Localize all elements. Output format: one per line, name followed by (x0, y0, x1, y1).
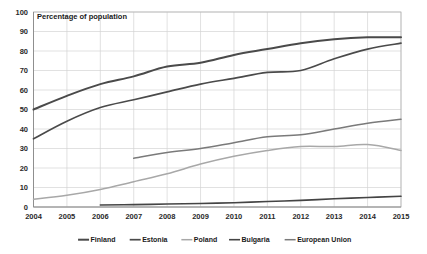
y-tick-label: 10 (20, 183, 28, 192)
chart-annotation: Percentage of population (37, 12, 127, 21)
chart-canvas: 0102030405060708090100 20042005200620072… (0, 0, 427, 254)
y-tick-label: 30 (20, 144, 28, 153)
legend-label: Bulgaria (242, 236, 270, 244)
y-tick-label: 50 (20, 105, 28, 114)
legend-label: European Union (297, 236, 351, 244)
y-tick-label: 90 (20, 27, 28, 36)
x-tick-label: 2007 (125, 212, 142, 221)
x-tick-label: 2015 (393, 212, 410, 221)
y-tick-label: 20 (20, 164, 28, 173)
legend-label: Estonia (142, 236, 167, 243)
x-tick-label: 2011 (259, 212, 275, 221)
y-tick-label: 70 (20, 66, 28, 75)
y-tick-label: 100 (15, 8, 28, 17)
x-tick-label: 2009 (192, 212, 209, 221)
legend-label: Finland (91, 236, 116, 243)
x-tick-label: 2014 (359, 212, 377, 221)
legend-label: Poland (194, 236, 217, 243)
y-tick-label: 0 (24, 203, 28, 212)
x-tick-label: 2012 (292, 212, 309, 221)
line-chart: 0102030405060708090100 20042005200620072… (0, 0, 427, 254)
y-tick-label: 80 (20, 47, 28, 56)
x-tick-label: 2005 (59, 212, 76, 221)
x-tick-label: 2010 (226, 212, 243, 221)
y-tick-label: 40 (20, 125, 28, 134)
y-tick-label: 60 (20, 86, 28, 95)
x-tick-label: 2013 (326, 212, 343, 221)
x-tick-label: 2006 (92, 212, 109, 221)
x-tick-label: 2008 (159, 212, 176, 221)
x-tick-label: 2004 (25, 212, 43, 221)
